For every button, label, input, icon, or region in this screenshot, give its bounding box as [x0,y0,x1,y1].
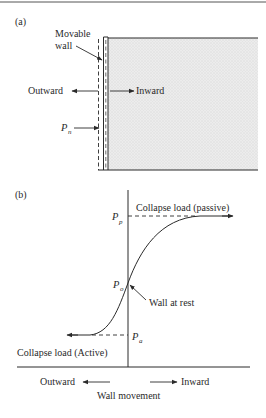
panel-b-label: (b) [15,189,27,201]
passive-collapse-label: Collapse load (passive) [136,202,229,214]
inward-label-b: Inward [181,376,209,387]
panel-b: (b) Collapse load (passive) P p P o Wall… [15,189,250,401]
po-symbol: P [112,279,120,290]
pressure-movement-curve [70,216,232,335]
outward-label-a: Outward [28,85,63,96]
wall-at-rest-pointer [130,285,146,300]
soil-backfill [108,38,258,170]
wall-pressure-diagram: (a) Movable wall Outward Inward P n (b) … [0,0,266,418]
po-subscript: o [120,285,124,293]
pp-subscript: p [118,218,123,226]
x-axis-label: Wall movement [97,390,161,401]
outward-label-b: Outward [40,376,75,387]
pp-symbol: P [111,211,119,222]
pn-symbol: P [60,122,68,133]
panel-a-label: (a) [15,16,26,28]
active-collapse-label: Collapse load (Active) [17,347,108,359]
movable-wall-label-line2: wall [55,40,72,51]
inward-label-a: Inward [136,85,164,96]
pa-subscript: a [139,337,143,345]
wall-at-rest-label: Wall at rest [149,297,195,308]
pn-subscript: n [68,128,72,136]
panel-a: (a) Movable wall Outward Inward P n [15,16,258,170]
pa-symbol: P [131,331,139,342]
movable-wall-label-line1: Movable [55,28,91,39]
